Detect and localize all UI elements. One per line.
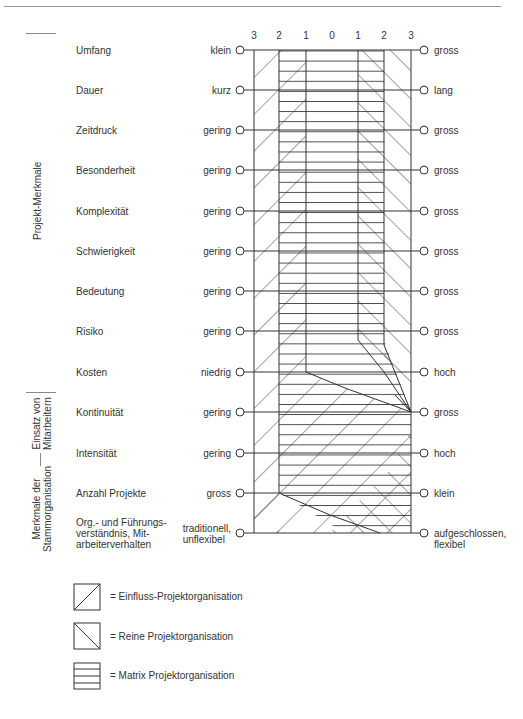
low-label: traditionell, unflexibel (183, 523, 231, 545)
high-label: gross (434, 286, 458, 297)
high-label: klein (434, 488, 455, 499)
high-label: gross (434, 326, 458, 337)
criterion-bedeutung: Bedeutung (76, 286, 124, 297)
criterion-komplexitaet: Komplexität (76, 206, 128, 217)
high-label: gross (434, 165, 458, 176)
high-label: hoch (434, 448, 456, 459)
legend-swatch-einfluss (74, 584, 100, 610)
legend-swatch-reine (74, 623, 100, 649)
criterion-dauer: Dauer (76, 85, 103, 96)
high-label: aufgeschlossen, flexibel (434, 528, 506, 550)
low-label: gering (203, 286, 231, 297)
high-label: gross (434, 45, 458, 56)
low-label: niedrig (201, 367, 231, 378)
high-label: hoch (434, 367, 456, 378)
section-divider (26, 392, 56, 393)
criterion-intensitaet: Intensität (76, 448, 117, 459)
high-label: lang (434, 85, 453, 96)
section-label-stammorganisation: Merkmale der Stammorganisation (31, 466, 53, 552)
criterion-zeitdruck: Zeitdruck (76, 125, 117, 136)
section-label-einsatz-mitarbeitern: Einsatz von Mitarbeitern (31, 397, 53, 450)
legend-label-einfluss: = Einfluss-Projektorganisation (110, 591, 243, 602)
low-label: gering (203, 407, 231, 418)
criterion-anzahl-projekte: Anzahl Projekte (76, 488, 146, 499)
criterion-org-fuehrung: Org.- und Führungs- verständnis, Mit- ar… (76, 517, 167, 550)
low-label: gering (203, 246, 231, 257)
low-label: gering (203, 165, 231, 176)
criterion-kosten: Kosten (76, 367, 107, 378)
low-label: gering (203, 326, 231, 337)
high-label: gross (434, 246, 458, 257)
high-label: gross (434, 407, 458, 418)
high-label: gross (434, 125, 458, 136)
low-label: kurz (212, 85, 231, 96)
legend-label-reine: = Reine Projektorganisation (110, 631, 233, 642)
low-label: gering (203, 448, 231, 459)
criterion-schwierigkeit: Schwierigkeit (76, 246, 135, 257)
high-label: gross (434, 206, 458, 217)
criterion-besonderheit: Besonderheit (76, 165, 135, 176)
criterion-umfang: Umfang (76, 45, 111, 56)
section-divider-vertical (40, 453, 41, 466)
section-label-projekt-merkmale: Projekt-Merkmale (32, 162, 43, 240)
criterion-kontinuitaet: Kontinuität (76, 407, 123, 418)
criterion-risiko: Risiko (76, 326, 103, 337)
low-label: klein (210, 45, 231, 56)
low-label: gering (203, 206, 231, 217)
profile-diagram (0, 0, 523, 719)
low-label: gross (207, 488, 231, 499)
low-label: gering (203, 125, 231, 136)
legend-label-matrix: = Matrix Projektorganisation (110, 670, 234, 681)
legend-swatch-matrix (74, 663, 100, 689)
